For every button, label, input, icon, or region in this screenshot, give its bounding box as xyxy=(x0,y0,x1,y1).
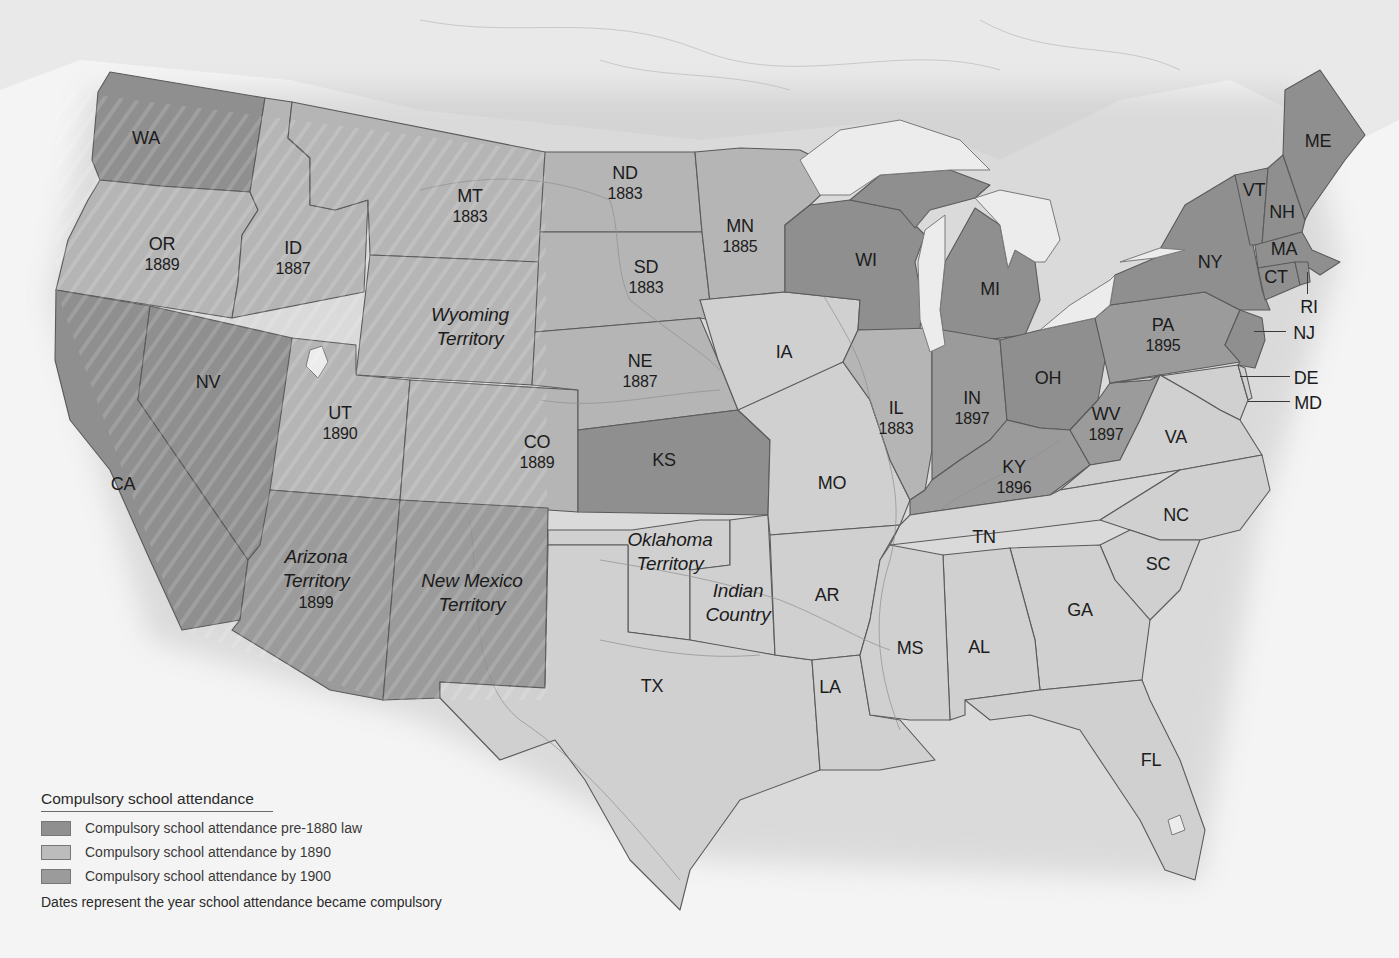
label-FL: FL xyxy=(1141,750,1162,771)
label-WI: WI xyxy=(855,250,877,271)
label-oklahoma-territory: OklahomaTerritory xyxy=(628,528,713,576)
legend-swatch-pre1880 xyxy=(41,821,71,836)
label-SD: SD1883 xyxy=(629,257,664,297)
label-arizona-territory: ArizonaTerritory1899 xyxy=(282,545,349,612)
label-GA: GA xyxy=(1067,600,1093,621)
label-IL: IL1883 xyxy=(879,398,914,438)
label-TN: TN xyxy=(972,527,996,548)
label-ID: ID1887 xyxy=(276,238,311,278)
label-VT: VT xyxy=(1243,180,1266,201)
label-AR: AR xyxy=(815,585,840,606)
label-NJ: NJ xyxy=(1293,323,1315,344)
label-VA: VA xyxy=(1165,427,1187,448)
label-PA: PA1895 xyxy=(1146,315,1181,355)
label-MN: MN1885 xyxy=(723,216,758,256)
map-legend: Compulsory school attendance Compulsory … xyxy=(41,790,501,910)
label-MD: MD xyxy=(1294,393,1322,414)
label-MS: MS xyxy=(897,638,924,659)
legend-title: Compulsory school attendance xyxy=(41,790,273,812)
legend-label-pre1880: Compulsory school attendance pre-1880 la… xyxy=(85,820,362,836)
label-IN: IN1897 xyxy=(955,388,990,428)
leader-DE xyxy=(1240,376,1290,377)
label-MT: MT1883 xyxy=(453,186,488,226)
legend-label-by1890: Compulsory school attendance by 1890 xyxy=(85,844,331,860)
label-WA: WA xyxy=(132,128,160,149)
label-new-mexico-territory: New MexicoTerritory xyxy=(421,569,522,617)
label-DE: DE xyxy=(1294,368,1319,389)
legend-swatch-by1890 xyxy=(41,845,71,860)
label-OH: OH xyxy=(1035,368,1062,389)
label-MO: MO xyxy=(818,473,847,494)
label-NY: NY xyxy=(1198,252,1223,273)
label-RI: RI xyxy=(1300,297,1318,318)
leader-MD xyxy=(1248,401,1290,402)
label-AL: AL xyxy=(968,637,990,658)
label-ND: ND1883 xyxy=(608,163,643,203)
leader-NJ xyxy=(1254,331,1286,332)
label-NV: NV xyxy=(196,372,221,393)
legend-item-by1900: Compulsory school attendance by 1900 xyxy=(41,868,501,884)
label-MI: MI xyxy=(980,279,1000,300)
label-UT: UT1890 xyxy=(323,403,358,443)
legend-note: Dates represent the year school attendan… xyxy=(41,894,501,910)
label-LA: LA xyxy=(819,677,841,698)
label-SC: SC xyxy=(1146,554,1171,575)
label-TX: TX xyxy=(641,676,664,697)
label-CA: CA xyxy=(111,474,136,495)
label-ME: ME xyxy=(1305,131,1332,152)
label-NC: NC xyxy=(1163,505,1189,526)
label-KS: KS xyxy=(652,450,676,471)
label-NH: NH xyxy=(1269,202,1295,223)
label-indian-country: IndianCountry xyxy=(705,579,770,627)
leader-RI xyxy=(1307,272,1308,294)
legend-item-pre1880: Compulsory school attendance pre-1880 la… xyxy=(41,820,501,836)
label-KY: KY1896 xyxy=(997,457,1032,497)
label-IA: IA xyxy=(776,342,793,363)
legend-label-by1900: Compulsory school attendance by 1900 xyxy=(85,868,331,884)
label-CO: CO1889 xyxy=(520,432,555,472)
label-OR: OR1889 xyxy=(145,234,180,274)
label-MA: MA xyxy=(1271,239,1298,260)
label-WV: WV1897 xyxy=(1089,404,1124,444)
label-wyoming-territory: WyomingTerritory xyxy=(431,303,509,351)
label-CT: CT xyxy=(1264,267,1288,288)
legend-item-by1890: Compulsory school attendance by 1890 xyxy=(41,844,501,860)
label-NE: NE1887 xyxy=(623,351,658,391)
legend-swatch-by1900 xyxy=(41,869,71,884)
